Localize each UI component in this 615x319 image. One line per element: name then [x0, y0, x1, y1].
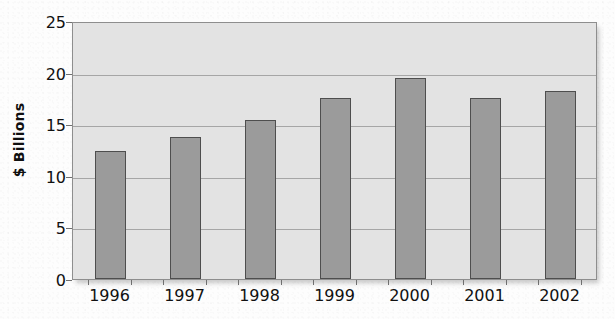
x-axis-tick [238, 280, 239, 285]
y-axis-tick [66, 125, 72, 126]
y-axis-tick-label: 10 [32, 167, 66, 186]
y-axis-tick [66, 22, 72, 23]
x-axis-tick-label-1997: 1997 [150, 286, 220, 305]
y-axis-tick-label: 25 [32, 13, 66, 32]
y-axis-tick-label: 0 [32, 271, 66, 290]
x-axis-tick [313, 280, 314, 285]
x-axis-tick [538, 280, 539, 285]
x-axis-tick [206, 280, 207, 285]
x-axis-tick [163, 280, 164, 285]
y-axis-title-text: $ Billions [11, 103, 27, 177]
x-axis-tick-label-1999: 1999 [300, 286, 370, 305]
x-axis-tick [506, 280, 507, 285]
bar-chart: $ Billions 0510152025 199619971998199920… [0, 0, 615, 319]
y-axis-tick [66, 177, 72, 178]
bar-1996 [95, 151, 126, 279]
bar-2001 [470, 98, 501, 279]
x-axis-tick-label-2000: 2000 [375, 286, 445, 305]
x-axis-tick-label-2002: 2002 [525, 286, 595, 305]
bar-2002 [545, 91, 576, 279]
bar-series [73, 23, 596, 279]
y-axis-tick-label: 5 [32, 219, 66, 238]
x-axis-tick [463, 280, 464, 285]
bar-1999 [320, 98, 351, 279]
x-axis-tick [581, 280, 582, 285]
y-axis-tick-label: 15 [32, 116, 66, 135]
x-axis-tick [88, 280, 89, 285]
plot-area [72, 22, 597, 280]
y-axis-tick [66, 74, 72, 75]
y-axis-tick [66, 280, 72, 281]
x-axis-tick [356, 280, 357, 285]
x-axis-tick-label-2001: 2001 [450, 286, 520, 305]
x-axis-tick-labels: 1996199719981999200020012002 [72, 286, 597, 312]
x-axis-tick [431, 280, 432, 285]
bar-1998 [245, 120, 276, 279]
x-axis-tick-label-1998: 1998 [225, 286, 295, 305]
y-axis-tick [66, 228, 72, 229]
y-axis-tick-label: 20 [32, 64, 66, 83]
x-axis-tick [281, 280, 282, 285]
x-axis-tick-label-1996: 1996 [75, 286, 145, 305]
bar-2000 [395, 78, 426, 279]
x-axis-tick [388, 280, 389, 285]
x-axis-tick [131, 280, 132, 285]
y-axis-tick-labels: 0510152025 [28, 0, 66, 319]
bar-1997 [170, 137, 201, 279]
